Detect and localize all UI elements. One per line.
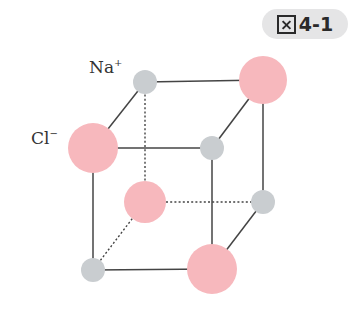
na-ion-atom: [200, 136, 224, 160]
na-ion-atom: [81, 258, 105, 282]
cl-ion-atom: [187, 244, 237, 294]
na-ion-atom: [133, 70, 157, 94]
visible-edges: [93, 80, 263, 270]
cl-ion-atom: [124, 181, 166, 223]
hidden-edges: [93, 82, 263, 270]
nacl-unit-cell-diagram: [0, 0, 357, 314]
na-ion-atom: [251, 190, 275, 214]
atoms: [68, 56, 287, 294]
cl-ion-atom: [239, 56, 287, 104]
cl-ion-atom: [68, 123, 118, 173]
